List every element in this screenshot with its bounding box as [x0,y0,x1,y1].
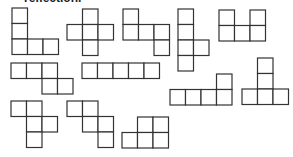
pentomino-net [123,9,170,56]
net-square [258,58,274,74]
net-square [27,117,43,133]
pentomino-net [11,63,73,94]
net-square [235,26,251,42]
net-square [98,132,114,148]
pentomino-net [242,58,289,105]
net-square [27,63,43,79]
net-square [154,25,170,41]
net-square [144,63,160,79]
net-square [178,25,194,41]
net-square [122,133,138,149]
net-square [178,56,194,72]
net-square [217,74,233,90]
net-square [194,40,210,56]
pentomino-net [219,10,266,41]
net-square [12,8,28,24]
net-square [273,89,289,105]
net-square [28,39,44,55]
pentomino-net [67,101,114,148]
net-square [153,133,169,149]
net-square [83,117,99,133]
net-square [219,26,235,42]
net-square [67,25,83,41]
net-square [258,89,274,105]
net-square [83,9,99,25]
pentomino-net [122,117,169,148]
net-square [43,39,59,55]
net-square [82,63,98,79]
net-square [138,117,154,133]
net-square [98,63,114,79]
net-square [123,9,139,25]
net-square [67,101,83,117]
pentomino-nets-diagram [0,0,293,157]
net-square [11,101,27,117]
net-square [138,133,154,149]
net-square [98,25,114,41]
net-square [178,9,194,25]
pentomino-net [11,101,58,148]
net-square [98,117,114,133]
net-square [178,40,194,56]
net-square [139,25,155,41]
net-square [42,117,58,133]
net-square [217,90,233,106]
net-square [242,89,258,105]
pentomino-net [82,63,160,79]
net-square [258,74,274,90]
net-square [83,25,99,41]
net-square [58,79,74,95]
pentomino-net [67,9,114,56]
pentomino-net [12,8,59,55]
net-square [154,40,170,56]
net-square [170,90,186,106]
pentomino-net [178,9,209,71]
net-square [42,79,58,95]
net-square [11,63,27,79]
net-square [12,39,28,55]
net-square [250,26,266,42]
net-square [27,132,43,148]
net-square [201,90,217,106]
net-square [219,10,235,26]
pentomino-net [170,74,232,105]
net-square [83,101,99,117]
net-square [129,63,145,79]
net-square [153,117,169,133]
net-square [250,10,266,26]
net-square [42,63,58,79]
net-square [83,40,99,56]
net-square [27,101,43,117]
net-square [12,24,28,40]
net-square [186,90,202,106]
net-square [113,63,129,79]
net-square [123,25,139,41]
